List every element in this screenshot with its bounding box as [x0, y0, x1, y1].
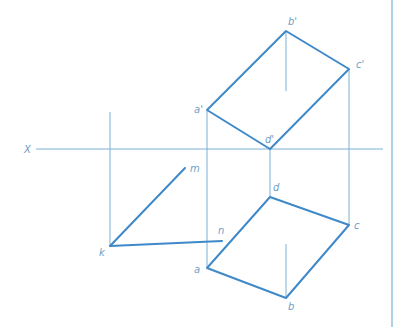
label-n: n — [218, 225, 224, 236]
label-d: d — [273, 182, 280, 193]
x-axis-label: X — [23, 144, 32, 155]
projection-diagram: X a' b' c' d' a b c d k m n — [0, 0, 398, 327]
line-kn — [110, 241, 222, 246]
label-m: m — [190, 163, 200, 174]
front-view-plane — [207, 31, 349, 149]
label-c: c — [354, 220, 360, 231]
line-km — [110, 168, 185, 246]
label-a-prime: a' — [194, 104, 203, 115]
label-b: b — [288, 301, 294, 312]
label-a: a — [194, 264, 200, 275]
label-b-prime: b' — [288, 16, 297, 27]
top-view-plane — [207, 197, 349, 298]
label-c-prime: c' — [356, 59, 364, 70]
label-k: k — [99, 247, 106, 258]
label-d-prime: d' — [265, 134, 274, 145]
